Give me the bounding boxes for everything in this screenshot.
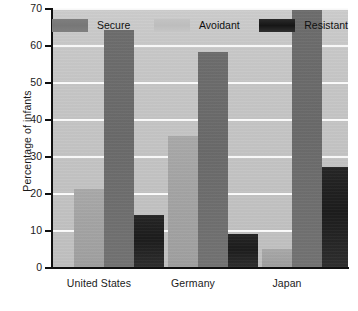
bar-united-states-secure [74,189,104,267]
legend-label-avoidant: Avoidant [199,19,240,31]
x-axis-label-united-states: United States [52,277,146,289]
y-tick-label: 50 [8,76,42,88]
bar-japan-avoidant [292,10,322,267]
bar-united-states-avoidant [104,30,134,267]
x-axis-line [51,267,349,269]
bar-japan-secure [262,249,292,268]
x-axis-label-japan: Japan [240,277,334,289]
legend-swatch-avoidant-icon [154,19,190,32]
bar-germany-resistant [228,234,258,267]
legend-entry-avoidant: Avoidant [154,19,240,32]
legend-swatch-secure-icon [52,19,88,32]
legend-entry-secure: Secure [52,19,130,32]
y-axis-title: Percentage of infants [21,46,33,236]
y-tick-label: 70 [8,2,42,14]
bar-germany-secure [168,136,198,267]
bar-chart: Percentage of infants 70 60 50 40 30 20 … [0,0,358,311]
y-axis-line [51,8,53,268]
y-tick-label: 10 [8,224,42,236]
y-tick-label: 30 [8,150,42,162]
chart-legend: Secure Avoidant Resistant [52,14,348,36]
y-tick-label: 40 [8,113,42,125]
y-tick-label: 0 [8,261,42,273]
legend-entry-resistant: Resistant [259,19,348,32]
plot-area [52,8,348,267]
bar-japan-resistant [322,167,348,267]
y-tick-label: 60 [8,39,42,51]
legend-label-secure: Secure [97,19,130,31]
bar-united-states-resistant [134,215,164,267]
legend-label-resistant: Resistant [304,19,348,31]
y-tick-label: 20 [8,187,42,199]
legend-swatch-resistant-icon [259,19,295,32]
x-axis-label-germany: Germany [146,277,240,289]
bar-germany-avoidant [198,52,228,267]
